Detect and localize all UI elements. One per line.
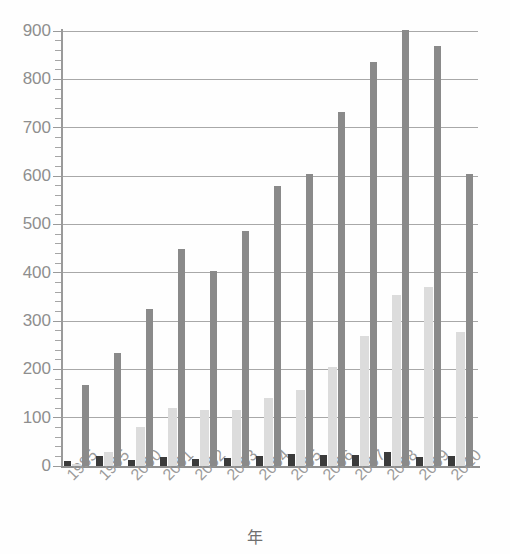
y-tick-label-300: 300 [23, 312, 51, 329]
bar-series-2-2007 [360, 336, 369, 466]
bar-series-3-1995 [114, 353, 121, 466]
bar-series-3-2003 [242, 231, 249, 466]
bar-series-3-2009 [434, 46, 441, 467]
bar-group [222, 31, 254, 466]
bar-series-1-2010 [448, 456, 455, 466]
bar-series-2-2003 [232, 410, 241, 466]
bar-series-3-2000 [146, 309, 153, 466]
y-tick-label-700: 700 [23, 119, 51, 136]
bar-series-2-2006 [328, 367, 337, 466]
bar-series-1-2000 [128, 460, 135, 466]
bar-series-2-1985 [72, 464, 81, 466]
bar-series-1-2001 [160, 457, 167, 466]
bar-series-2-2002 [200, 410, 209, 466]
bar-series-2-2010 [456, 332, 465, 466]
bar-series-1-1985 [64, 461, 71, 466]
bar-series-2-1995 [104, 452, 113, 467]
y-tick-label-100: 100 [23, 409, 51, 426]
y-tick-label-200: 200 [23, 360, 51, 377]
bar-series-3-2004 [274, 186, 281, 466]
bar-chart: 0100200300400500600700800900 19851995200… [0, 0, 510, 554]
x-axis-title: 年 [0, 524, 510, 548]
bar-series-1-2009 [416, 457, 423, 466]
y-tick-label-0: 0 [42, 457, 51, 474]
bar-series-1-2004 [256, 456, 263, 466]
y-tick-label-600: 600 [23, 167, 51, 184]
bar-series-2-2005 [296, 390, 305, 466]
bar-group [62, 31, 94, 466]
y-tick-label-500: 500 [23, 215, 51, 232]
bar-group [254, 31, 286, 466]
bar-series-1-2005 [288, 454, 295, 466]
bar-series-2-2004 [264, 398, 273, 466]
bar-group [446, 31, 478, 466]
bar-series-3-2008 [402, 30, 409, 466]
bar-series-3-1985 [82, 385, 89, 466]
bar-group [382, 31, 414, 466]
bar-series-3-2006 [338, 112, 345, 466]
bar-series-2-2008 [392, 295, 401, 466]
y-tick-label-900: 900 [23, 22, 51, 39]
bar-series-3-2010 [466, 174, 473, 466]
bar-series-1-2007 [352, 455, 359, 466]
bar-group [414, 31, 446, 466]
bar-series-3-2007 [370, 62, 377, 466]
bar-series-2-2001 [168, 408, 177, 466]
y-tick-label-800: 800 [23, 70, 51, 87]
bar-series-1-2003 [224, 458, 231, 466]
bar-group [318, 31, 350, 466]
bar-series-1-2008 [384, 452, 391, 466]
bar-group [94, 31, 126, 466]
y-tick-label-400: 400 [23, 264, 51, 281]
bar-series-3-2001 [178, 249, 185, 466]
bar-series-1-1995 [96, 456, 103, 466]
bar-series-1-2006 [320, 455, 327, 466]
bar-series-2-2009 [424, 287, 433, 466]
bar-group [126, 31, 158, 466]
bar-series-1-2002 [192, 459, 199, 466]
bar-series-2-2000 [136, 427, 145, 466]
bar-group [158, 31, 190, 466]
bar-series-3-2002 [210, 271, 217, 466]
bar-group [286, 31, 318, 466]
bar-group [350, 31, 382, 466]
bar-series-3-2005 [306, 174, 313, 466]
bar-group [190, 31, 222, 466]
